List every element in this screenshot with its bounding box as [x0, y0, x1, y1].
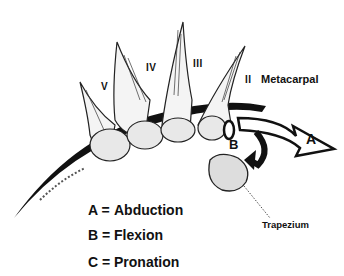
trapezium-bone	[209, 154, 248, 191]
legend-item-abduction: A =Abduction	[88, 203, 183, 217]
legend-value: Pronation	[114, 254, 179, 270]
hand-bone-illustration	[0, 0, 344, 276]
legend-value: Flexion	[114, 227, 163, 243]
label-iii: III	[193, 59, 203, 69]
label-iv: IV	[146, 63, 156, 73]
arrow-a	[238, 118, 334, 156]
legend-key: B =	[88, 228, 114, 242]
label-ii: II	[245, 75, 252, 85]
label-arrow-b: B	[229, 138, 238, 151]
legend-key: A =	[88, 203, 114, 217]
label-v: V	[101, 82, 108, 92]
metacarpal-iii	[162, 22, 192, 132]
legend-item-flexion: B =Flexion	[88, 228, 163, 242]
trapezium-leader	[244, 186, 270, 218]
label-arrow-a: A	[306, 132, 316, 146]
label-metacarpal: Metacarpal	[261, 74, 318, 85]
label-trapezium: Trapezium	[262, 220, 309, 230]
legend-key: C =	[88, 255, 114, 269]
legend-value: Abduction	[114, 202, 183, 218]
legend-item-pronation: C =Pronation	[88, 255, 179, 269]
